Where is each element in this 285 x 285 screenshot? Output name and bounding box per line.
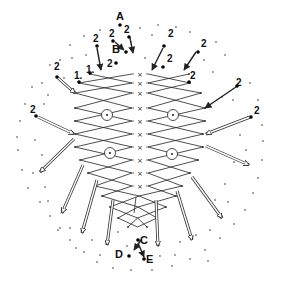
row-center-dot <box>146 92 147 93</box>
number-label: 2 <box>109 28 115 39</box>
row-center-dot <box>146 120 147 121</box>
zigzag-line <box>102 196 138 207</box>
field-dot <box>63 77 65 79</box>
field-dot <box>69 239 71 241</box>
zigzag-line <box>139 186 182 196</box>
field-dot <box>59 227 61 229</box>
field-dot <box>44 186 46 188</box>
circle-marker-center <box>172 114 174 116</box>
circle-marker-center <box>106 114 108 116</box>
hollow-arrow <box>82 180 97 233</box>
row-center-dot <box>146 73 147 74</box>
circle-marker-center <box>171 153 173 155</box>
field-dot <box>41 154 43 156</box>
number-label: 2 <box>201 38 207 49</box>
field-dot <box>24 103 26 105</box>
solid-arrow <box>184 52 196 70</box>
row-center-dot <box>146 159 147 160</box>
row-x-marker: × <box>137 170 143 178</box>
number-label: 1. <box>74 70 83 81</box>
field-dot <box>47 200 49 202</box>
zigzag-line <box>138 207 167 218</box>
field-dot <box>239 134 241 136</box>
row-center-dot <box>132 120 133 121</box>
number-labels: 2222222222221.1. <box>30 24 260 116</box>
zigzag-line <box>118 207 138 218</box>
field-dot <box>227 201 229 203</box>
field-dot <box>209 229 211 231</box>
row-end-dot <box>146 226 148 228</box>
number-label: 2 <box>124 24 130 35</box>
row-center-dot <box>146 133 147 134</box>
field-dot <box>17 149 19 151</box>
field-dot <box>157 24 159 26</box>
field-dot <box>224 54 226 56</box>
field-dot <box>71 57 73 59</box>
row-x-marker: × <box>137 105 143 113</box>
field-dot <box>75 247 77 249</box>
row-center-dot <box>132 133 133 134</box>
field-dot <box>159 255 161 257</box>
field-dot <box>151 34 153 36</box>
field-dot <box>195 234 197 236</box>
number-label: 2 <box>107 58 113 69</box>
zigzag-line <box>148 186 176 196</box>
field-dot <box>232 99 234 101</box>
hollow-arrow <box>62 165 83 213</box>
field-dot <box>34 139 36 141</box>
field-dot <box>244 209 246 211</box>
label-b: B <box>112 43 120 55</box>
point-dot <box>95 44 99 48</box>
row-center-dot <box>146 172 147 173</box>
row-x-marker: × <box>137 80 143 88</box>
field-dot <box>204 249 206 251</box>
field-dot <box>19 120 21 122</box>
solid-arrow <box>97 48 101 70</box>
hollow-arrow <box>206 146 249 165</box>
number-label: 2 <box>93 33 99 44</box>
field-dot <box>212 71 214 73</box>
point-dot <box>127 254 131 258</box>
number-label: 2 <box>190 70 196 81</box>
row-center-dot <box>146 82 147 83</box>
hollow-arrow <box>58 78 75 93</box>
field-dot <box>96 261 98 263</box>
zigzag-line <box>148 173 190 186</box>
point-dot <box>124 50 128 54</box>
row-center-dot <box>132 107 133 108</box>
label-d: D <box>115 248 123 260</box>
field-dot <box>41 82 43 84</box>
row-center-dot <box>146 107 147 108</box>
row-center-dot <box>132 159 133 160</box>
zigzag-line <box>138 218 148 227</box>
field-dot <box>39 201 41 203</box>
spindle-diagram: ×××××××××× 2222222222221.1. A B C D E <box>0 0 285 285</box>
field-dot <box>32 172 34 174</box>
field-dot <box>171 265 173 267</box>
field-dot <box>112 267 114 269</box>
hollow-arrow <box>177 191 192 240</box>
point-dot <box>114 61 118 65</box>
solid-arrow <box>130 38 133 53</box>
row-center-dot <box>146 146 147 147</box>
field-dot <box>117 231 119 233</box>
row-x-marker: × <box>137 144 143 152</box>
hollow-arrow <box>40 139 74 172</box>
hollow-arrow <box>38 117 74 134</box>
field-dot <box>130 269 132 271</box>
point-dot <box>127 35 131 39</box>
field-dot <box>49 64 51 66</box>
row-center-dot <box>132 73 133 74</box>
center-stroke <box>134 197 136 213</box>
number-label: 2 <box>168 28 174 39</box>
row-center-dot <box>132 185 133 186</box>
field-dot <box>179 241 181 243</box>
field-dot <box>189 258 191 260</box>
field-dot <box>126 245 128 247</box>
field-dot <box>47 94 49 96</box>
zigzag-line <box>110 207 138 218</box>
field-dot <box>21 169 23 171</box>
field-dot <box>99 29 101 31</box>
field-dot <box>139 27 141 29</box>
field-dot <box>245 149 247 151</box>
